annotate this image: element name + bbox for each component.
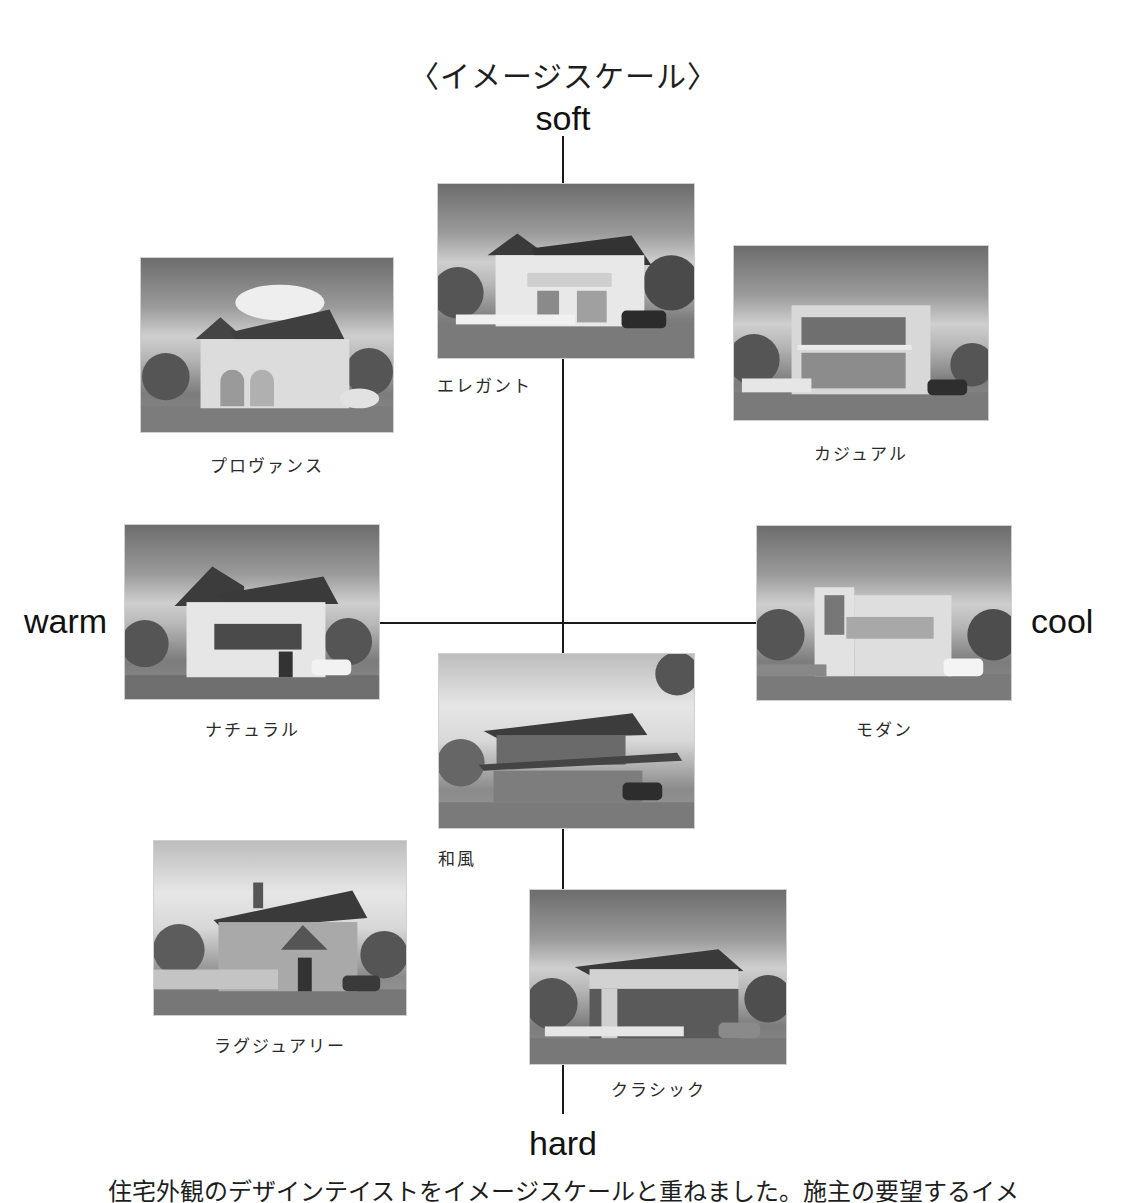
house-illustration-icon bbox=[439, 654, 694, 828]
vertical-axis-line-top bbox=[562, 136, 564, 184]
style-label-casual: カジュアル bbox=[733, 440, 989, 465]
vertical-axis-line-lower bbox=[562, 828, 564, 890]
house-photo-casual bbox=[733, 245, 989, 421]
axis-label-warm: warm bbox=[24, 604, 107, 638]
vertical-axis-line-middle bbox=[562, 358, 564, 654]
house-illustration-icon bbox=[125, 525, 379, 699]
house-illustration-icon bbox=[438, 184, 694, 358]
house-photo-modern bbox=[756, 525, 1012, 701]
horizontal-axis-line bbox=[380, 622, 757, 624]
style-label-modern: モダン bbox=[756, 716, 1012, 741]
house-illustration-icon bbox=[530, 890, 786, 1064]
house-photo-elegant bbox=[437, 183, 695, 359]
house-illustration-icon bbox=[154, 841, 406, 1015]
style-label-wafu: 和風 bbox=[438, 845, 476, 870]
house-photo-classic bbox=[529, 889, 787, 1065]
style-label-luxury: ラグジュアリー bbox=[153, 1032, 407, 1057]
house-photo-luxury bbox=[153, 840, 407, 1016]
footer-caption: 住宅外観のデザインテイストをイメージスケールと重ねました。施主の要望するイメ bbox=[0, 1172, 1127, 1203]
image-scale-title: 〈イメージスケール〉 bbox=[0, 52, 1127, 96]
house-photo-natural bbox=[124, 524, 380, 700]
house-illustration-icon bbox=[757, 526, 1011, 700]
house-photo-provence bbox=[140, 257, 394, 433]
style-label-natural: ナチュラル bbox=[124, 716, 380, 741]
house-illustration-icon bbox=[141, 258, 393, 432]
axis-label-cool: cool bbox=[1031, 604, 1093, 638]
house-illustration-icon bbox=[734, 246, 988, 420]
axis-label-hard: hard bbox=[513, 1126, 613, 1160]
house-photo-wafu bbox=[438, 653, 695, 829]
style-label-classic: クラシック bbox=[529, 1076, 787, 1101]
style-label-elegant: エレガント bbox=[437, 372, 532, 397]
style-label-provence: プロヴァンス bbox=[140, 452, 394, 477]
axis-label-soft: soft bbox=[513, 101, 613, 135]
